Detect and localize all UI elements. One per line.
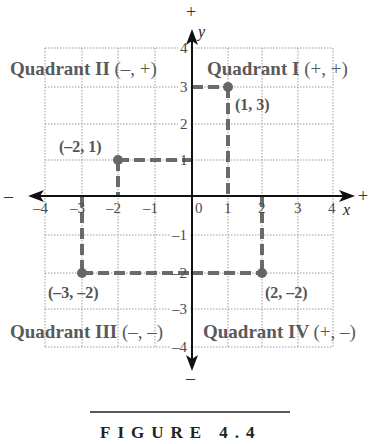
point-neg2-1 [113,155,123,165]
quadrant-i-label: Quadrant I (+, +) [207,58,348,80]
quadrant-ii-label: Quadrant II (–, +) [10,58,157,80]
point-2-neg2 [257,268,267,278]
svg-text:–4: –4 [32,200,49,216]
svg-text:3: 3 [180,79,188,95]
svg-text:–1: –1 [171,227,187,243]
svg-text:–3: –3 [69,200,85,216]
svg-text:0: 0 [195,200,203,216]
svg-text:2: 2 [258,200,266,216]
x-negative-sign: – [3,186,14,206]
coordinate-plane: + – – + y x –4 –3 –2 –1 0 1 2 3 4 4 3 2 … [0,0,372,444]
y-tick-labels: 4 3 2 1 –1 –2 –3 –4 [171,40,188,355]
point-label-neg3-neg2: (–3, –2) [48,284,99,302]
svg-text:–1: –1 [142,200,158,216]
x-tick-labels: –4 –3 –2 –1 0 1 2 3 4 [32,200,336,216]
point-1-3 [223,82,233,92]
projection-lines [82,87,262,273]
quadrant-iv-label: Quadrant IV (+, –) [203,321,356,343]
svg-text:–2: –2 [105,200,121,216]
y-axis-label: y [196,23,206,41]
point-label-1-3: (1, 3) [235,96,270,114]
figure-caption: FIGURE 4.4 [100,423,262,442]
point-label-2-neg2: (2, –2) [265,284,308,302]
svg-text:–4: –4 [171,339,188,355]
y-positive-sign: + [186,2,196,22]
svg-text:–2: –2 [171,265,187,281]
quadrant-iii-label: Quadrant III (–, –) [10,321,163,343]
x-positive-sign: + [358,186,368,206]
svg-text:1: 1 [224,200,232,216]
svg-text:–3: –3 [171,301,187,317]
svg-text:4: 4 [328,200,336,216]
point-label-neg2-1: (–2, 1) [59,138,102,156]
svg-text:4: 4 [180,40,188,56]
svg-text:3: 3 [294,200,302,216]
x-axis-label: x [342,201,350,218]
svg-text:2: 2 [180,116,188,132]
y-negative-sign: – [185,368,196,388]
point-neg3-neg2 [77,268,87,278]
svg-text:1: 1 [180,152,188,168]
